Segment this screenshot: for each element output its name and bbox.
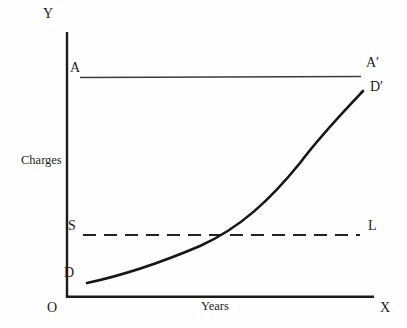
x-axis-title-label: Years bbox=[201, 300, 229, 313]
rising-curve-d-dprime bbox=[87, 91, 363, 283]
curve-end-label: D′ bbox=[370, 80, 383, 94]
y-axis-symbol-label: Y bbox=[43, 7, 53, 21]
insurance-charges-diagram: Y Charges A A′ D′ S L D O Years X bbox=[0, 0, 407, 328]
y-axis-title-label: Charges bbox=[21, 154, 62, 167]
flat-line-start-label: A bbox=[70, 61, 80, 75]
x-axis-symbol-label: X bbox=[380, 301, 390, 315]
dashed-line-start-label: S bbox=[68, 219, 76, 233]
dashed-line-end-label: L bbox=[368, 219, 377, 233]
flat-line-end-label: A′ bbox=[366, 56, 379, 70]
origin-label: O bbox=[47, 301, 57, 315]
curve-start-label: D bbox=[64, 266, 74, 280]
flat-top-line-a-aprime bbox=[80, 77, 361, 78]
